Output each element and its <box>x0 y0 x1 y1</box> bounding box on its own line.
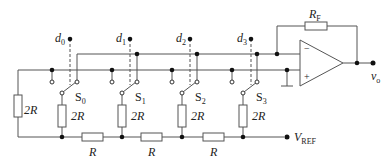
opamp-plus-label: + <box>304 72 310 82</box>
series-resistor-1-label: R <box>148 146 155 158</box>
data-input-d3-label: d3 <box>237 32 247 47</box>
vref-label: VREF <box>294 131 316 146</box>
output-label: vo <box>371 70 380 85</box>
branch-resistor-1-label: 2R <box>131 110 144 122</box>
branch-resistor-3-label: 2R <box>252 110 265 122</box>
branch-resistor-2-label: 2R <box>191 110 204 122</box>
branch-resistor-0-label: 2R <box>71 110 84 122</box>
series-resistor-2-label: R <box>210 146 217 158</box>
feedback-resistor-label: RF <box>309 8 321 23</box>
data-input-d2-label: d2 <box>176 32 186 47</box>
termination-resistor-label: 2R <box>24 104 37 116</box>
data-input-d1-label: d1 <box>116 32 126 47</box>
switch-s0-label: S0 <box>75 91 86 106</box>
switch-s2-label: S2 <box>195 91 206 106</box>
opamp-minus-label: − <box>304 44 310 54</box>
switch-s1-label: S1 <box>135 91 146 106</box>
data-input-d0-label: d0 <box>55 32 65 47</box>
switch-s3-label: S3 <box>256 91 267 106</box>
circuit-schematic <box>0 0 386 162</box>
series-resistor-0-label: R <box>89 146 96 158</box>
